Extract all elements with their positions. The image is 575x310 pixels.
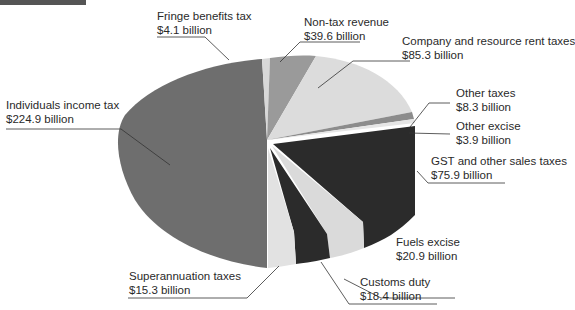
leader-othertaxes: [410, 103, 450, 127]
label-name: Other taxes: [456, 87, 515, 101]
leader-otherexcise: [409, 133, 450, 134]
label-other-excise: Other excise $3.9 billion: [456, 120, 521, 147]
label-name: Fuels excise: [396, 236, 460, 250]
label-value: $39.6 billion: [304, 30, 389, 44]
label-value: $75.9 billion: [431, 169, 567, 183]
label-name: Individuals income tax: [6, 99, 119, 113]
label-gst: GST and other sales taxes $75.9 billion: [431, 155, 567, 182]
leader-fringe: [157, 37, 229, 60]
label-value: $85.3 billion: [402, 49, 575, 63]
label-fringe-benefits-tax: Fringe benefits tax $4.1 billion: [157, 10, 252, 37]
label-value: $15.3 billion: [129, 284, 241, 298]
label-fuels-excise: Fuels excise $20.9 billion: [396, 236, 460, 263]
label-name: Superannuation taxes: [129, 270, 241, 284]
label-company-taxes: Company and resource rent taxes $85.3 bi…: [402, 35, 575, 62]
label-value: $3.9 billion: [456, 134, 521, 148]
label-name: GST and other sales taxes: [431, 155, 567, 169]
label-name: Non-tax revenue: [304, 16, 389, 30]
slice-individuals-income-tax: [118, 59, 267, 268]
label-superannuation-taxes: Superannuation taxes $15.3 billion: [129, 270, 241, 297]
label-value: $20.9 billion: [396, 250, 460, 264]
label-other-taxes: Other taxes $8.3 billion: [456, 87, 515, 114]
label-value: $4.1 billion: [157, 24, 252, 38]
label-value: $224.9 billion: [6, 113, 119, 127]
label-non-tax-revenue: Non-tax revenue $39.6 billion: [304, 16, 389, 43]
label-customs-duty: Customs duty $18.4 billion: [360, 276, 430, 303]
label-name: Fringe benefits tax: [157, 10, 252, 24]
label-value: $18.4 billion: [360, 290, 430, 304]
label-name: Customs duty: [360, 276, 430, 290]
label-name: Company and resource rent taxes: [402, 35, 575, 49]
label-individuals-income-tax: Individuals income tax $224.9 billion: [6, 99, 119, 126]
label-name: Other excise: [456, 120, 521, 134]
label-value: $8.3 billion: [456, 101, 515, 115]
